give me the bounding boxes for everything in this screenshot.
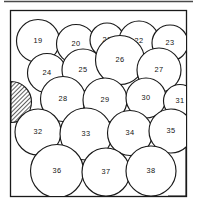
- packed-circle-37: 37: [82, 148, 130, 196]
- circle-label-33: 33: [81, 129, 90, 138]
- circle-label-36: 36: [52, 166, 61, 175]
- circle-label-24: 24: [42, 68, 51, 77]
- circle-label-28: 28: [58, 94, 67, 103]
- circle-packing-figure: 1920212223242526272829303132333435363738: [0, 0, 197, 211]
- circle-label-26: 26: [115, 55, 124, 64]
- circle-label-35: 35: [166, 126, 175, 135]
- circle-label-29: 29: [100, 95, 109, 104]
- circle-label-30: 30: [141, 93, 150, 102]
- circle-label-19: 19: [33, 36, 42, 45]
- circle-label-20: 20: [71, 39, 80, 48]
- circle-label-27: 27: [154, 65, 163, 74]
- circle-label-25: 25: [78, 65, 87, 74]
- circle-label-32: 32: [33, 127, 42, 136]
- circle-label-31: 31: [175, 96, 184, 105]
- circles-group: 1920212223242526272829303132333435363738: [15, 20, 197, 198]
- circle-label-23: 23: [165, 38, 174, 47]
- packed-circle-36: 36: [31, 145, 84, 198]
- circle-label-38: 38: [146, 166, 155, 175]
- packed-circle-26: 26: [96, 36, 145, 85]
- packed-circle-38: 38: [126, 146, 176, 196]
- circle-label-34: 34: [125, 128, 134, 137]
- packing-diagram-svg: 1920212223242526272829303132333435363738: [0, 0, 197, 211]
- circle-label-37: 37: [101, 167, 110, 176]
